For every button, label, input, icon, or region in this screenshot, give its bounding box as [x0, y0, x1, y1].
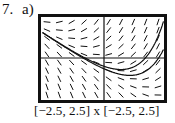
slope-segment — [57, 52, 61, 56]
slope-segment — [130, 70, 136, 72]
slope-segment — [106, 77, 111, 80]
slope-segment — [46, 84, 48, 90]
slope-segment — [44, 22, 50, 23]
slope-segment — [58, 76, 61, 81]
slope-segment — [107, 19, 110, 24]
slope-segment — [155, 86, 161, 88]
slope-segment — [107, 93, 111, 98]
slope-segment — [143, 94, 149, 96]
slope-segment — [143, 78, 149, 80]
problem-number: 7. — [2, 2, 13, 17]
slope-segment — [70, 76, 73, 81]
window-caption: [−2.5, 2.5] x [−2.5, 2.5] — [34, 104, 159, 118]
slope-segment — [44, 29, 50, 31]
slope-segment — [94, 77, 98, 81]
slope-segment — [144, 60, 148, 64]
problem-part: a) — [22, 2, 34, 17]
slope-segment — [46, 92, 48, 98]
slope-segment — [156, 69, 160, 73]
slope-segment — [56, 21, 62, 22]
slope-segment — [131, 44, 135, 49]
slope-segment — [58, 84, 60, 90]
slope-segment — [46, 68, 49, 73]
slope-segment — [82, 68, 86, 72]
slope-segment — [131, 86, 137, 88]
slope-segment — [82, 76, 85, 81]
slope-segment — [118, 78, 124, 80]
slope-segment — [69, 29, 75, 30]
slope-segment — [82, 84, 85, 89]
slope-segment — [82, 61, 87, 65]
slope-segment — [106, 54, 112, 56]
slope-segment — [120, 19, 123, 24]
slope-segment — [107, 28, 111, 33]
slope-segment — [46, 76, 48, 82]
slope-segment — [106, 45, 111, 48]
slope-segment — [45, 52, 48, 57]
slope-segment — [58, 68, 61, 73]
slope-segment — [56, 30, 62, 31]
slope-segment — [144, 27, 146, 32]
slope-segment — [71, 92, 73, 98]
slope-segment — [118, 53, 123, 56]
slope-segment — [83, 92, 86, 97]
slope-segment — [118, 62, 124, 64]
slope-segment — [94, 20, 98, 25]
slope-field-plot — [41, 17, 164, 100]
slope-segment — [131, 93, 136, 96]
slope-segment — [157, 44, 160, 49]
slope-segment — [106, 36, 110, 40]
slope-segment — [69, 21, 74, 24]
slope-segment — [81, 29, 86, 32]
slope-segment — [70, 68, 73, 73]
slope-segment — [82, 20, 86, 24]
slope-segment — [94, 69, 99, 73]
slope-segment — [119, 93, 123, 97]
slope-segment — [119, 28, 122, 33]
slope-segment — [58, 60, 61, 65]
calculator-screen-frame — [38, 14, 167, 103]
slope-segment — [57, 37, 63, 39]
slope-segment — [95, 92, 98, 97]
slope-segment — [132, 36, 135, 41]
slope-segment — [81, 53, 87, 55]
slope-segment — [81, 37, 87, 38]
slope-segment — [70, 60, 74, 64]
slope-segment — [45, 44, 49, 48]
slope-segment — [119, 36, 123, 41]
slope-segment — [119, 85, 124, 88]
slope-segment — [94, 28, 98, 32]
slope-segment — [132, 19, 134, 24]
slope-segment — [69, 45, 75, 47]
slope-segment — [69, 53, 74, 57]
slope-segment — [144, 44, 147, 49]
slope-segment — [145, 19, 147, 25]
slope-segment — [155, 77, 160, 80]
slope-segment — [119, 44, 123, 48]
slope-segment — [94, 37, 99, 40]
slope-segment — [46, 60, 49, 65]
slope-segment — [58, 92, 60, 98]
slope-segment — [144, 36, 147, 41]
slope-segment — [93, 46, 99, 48]
slope-segment — [95, 84, 99, 89]
slope-segment — [132, 27, 135, 32]
slope-segment — [131, 52, 135, 56]
slope-segment — [157, 27, 159, 33]
slope-segment — [131, 61, 136, 64]
slope-segment — [107, 85, 111, 89]
slope-segment — [70, 84, 73, 89]
slope-segment — [157, 19, 159, 25]
